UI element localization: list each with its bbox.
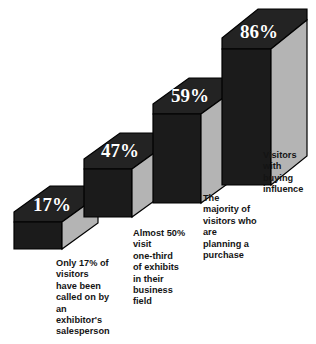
bar-caption-59: The majority of visitors who are plannin… <box>203 193 271 261</box>
bar-caption-86: Visitors with buying influence <box>263 150 316 196</box>
bar-59-front-face <box>153 114 201 203</box>
bar-47-front-face <box>84 169 132 217</box>
bar-chart: 17% 47% 59% 86% Only 17% of visitors hav… <box>0 0 316 344</box>
bar-value-label-59: 59% <box>171 85 209 107</box>
bar-caption-17: Only 17% of visitors have been called on… <box>56 258 134 338</box>
bar-value-label-47: 47% <box>101 140 139 162</box>
bar-value-label-86: 86% <box>240 21 278 43</box>
bar-value-label-17: 17% <box>33 194 71 216</box>
bar-caption-47: Almost 50% visit one-third of exhibits i… <box>133 228 205 308</box>
bar-17-front-face <box>14 222 62 249</box>
